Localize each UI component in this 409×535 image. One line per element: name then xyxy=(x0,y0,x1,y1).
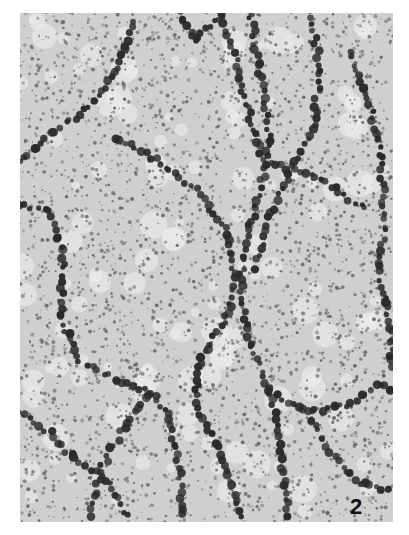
micrograph-texture xyxy=(20,13,393,522)
micrograph xyxy=(20,13,393,522)
panel-label: 2 xyxy=(350,496,362,518)
